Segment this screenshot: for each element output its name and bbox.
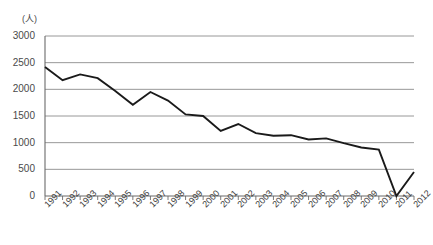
data-series <box>45 67 414 196</box>
x-axis-ticks <box>45 196 414 200</box>
series-line <box>45 67 414 196</box>
gridlines <box>45 36 414 196</box>
